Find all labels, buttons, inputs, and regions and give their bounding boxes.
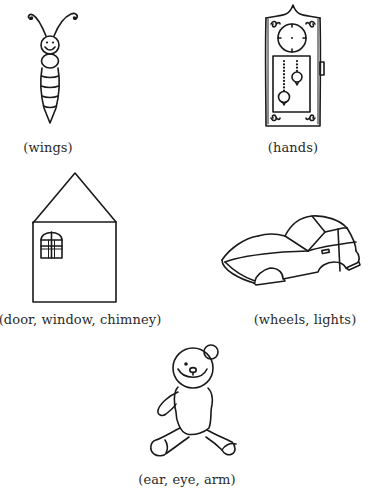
drawings-canvas xyxy=(0,0,369,490)
caption-teddy-bear: (ear, eye, arm) xyxy=(138,472,235,488)
caption-insect: (wings) xyxy=(23,140,73,156)
insect-drawing-icon xyxy=(29,13,78,123)
teddy-bear-drawing-icon xyxy=(151,345,236,456)
grandfather-clock-drawing-icon xyxy=(266,5,324,126)
car-drawing-icon xyxy=(222,216,360,285)
caption-clock: (hands) xyxy=(268,140,318,156)
worksheet-page: (wings) (hands) (door, window, chimney) … xyxy=(0,0,369,490)
house-drawing-icon xyxy=(33,173,116,302)
caption-house: (door, window, chimney) xyxy=(0,312,161,328)
caption-car: (wheels, lights) xyxy=(254,312,357,328)
